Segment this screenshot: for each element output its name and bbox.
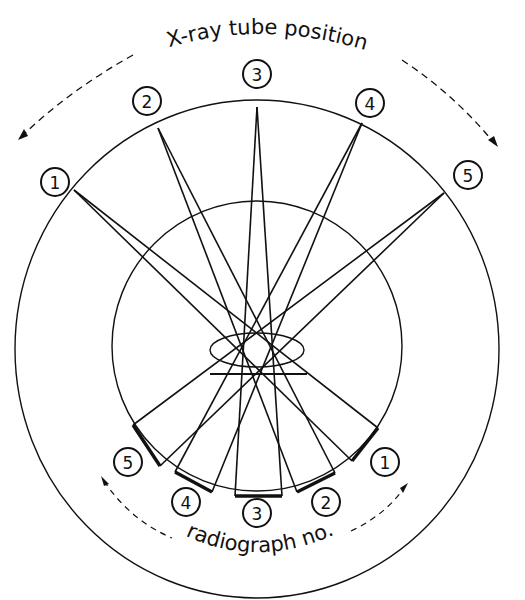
tube-direction-arc-left — [22, 55, 133, 136]
radiograph-number: 3 — [252, 504, 263, 524]
tube-number: 3 — [252, 65, 263, 85]
tube-label-5: 5 — [454, 161, 482, 189]
tube-number: 1 — [50, 173, 61, 193]
radiograph-number: 4 — [181, 493, 192, 513]
tube-number: 4 — [365, 94, 376, 114]
tube-number: 5 — [463, 166, 474, 186]
tube-label-3: 3 — [243, 60, 271, 88]
arrow-left-bottom-icon — [101, 476, 109, 486]
radiograph-label-3: 3 — [243, 499, 271, 527]
arrow-right-bottom-icon — [400, 483, 408, 493]
radiograph-number: 5 — [123, 453, 134, 473]
beam-edge-2-2 — [158, 128, 297, 492]
tube-label-1: 1 — [41, 168, 69, 196]
tube-number: 2 — [142, 92, 153, 112]
beam-edge-3-2 — [235, 107, 257, 496]
radiograph-number: 2 — [321, 493, 332, 513]
beam-edge-4-1 — [212, 123, 362, 492]
arrow-right-icon — [488, 136, 498, 147]
beam-edge-3-1 — [257, 107, 282, 496]
radiograph-label-4: 4 — [172, 488, 200, 516]
beam-edge-1-2 — [74, 190, 352, 461]
radiograph-direction-arc-right — [351, 488, 404, 531]
inner-circle — [112, 201, 402, 491]
radiograph-direction-arc-left — [104, 481, 172, 538]
tube-direction-arc-right — [402, 60, 494, 143]
beam-edge-4-2 — [175, 123, 362, 472]
arrow-left-icon — [18, 129, 28, 140]
radiograph-label-5: 5 — [114, 448, 142, 476]
radiograph-label-1: 1 — [371, 448, 399, 476]
tube-label-4: 4 — [356, 89, 384, 117]
radiograph-label-2: 2 — [312, 488, 340, 516]
object-ellipse — [210, 333, 304, 367]
tube-label-2: 2 — [133, 87, 161, 115]
top-label: X-ray tube position — [164, 15, 371, 55]
radiograph-number: 1 — [380, 453, 391, 473]
tomography-diagram: 1234512345 X-ray tube position radiograp… — [0, 0, 525, 600]
